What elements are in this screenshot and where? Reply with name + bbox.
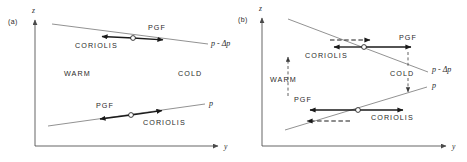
panel-b-warm-label: WARM xyxy=(270,75,297,84)
panel-a-lower-coriolis-arrow xyxy=(131,111,162,115)
panel-b-cold-motion: COLD xyxy=(390,52,414,92)
panel-b-upper-isobar-label: p - Δp xyxy=(431,65,451,74)
panel-b-lower-pgf-label: PGF xyxy=(294,95,312,104)
panel-a-axes: z y xyxy=(31,6,228,151)
panel-a-label: (a) xyxy=(8,18,18,26)
figure-container: (a) z y p - Δp CORIOLIS PGF p PGF CORIOL xyxy=(0,0,467,162)
panel-b-warm-motion: WARM xyxy=(270,57,297,96)
panel-a: (a) z y p - Δp CORIOLIS PGF p PGF CORIOL xyxy=(8,6,230,151)
panel-b-y-axis-label: z xyxy=(258,4,262,13)
panel-a-cold-label: COLD xyxy=(178,69,202,78)
panel-b-lower-isobar: p PGF CORIOLIS xyxy=(285,81,436,130)
panel-b-upper-coriolis-label: CORIOLIS xyxy=(305,51,348,60)
panel-b: (b) z y p - Δp CORIOLIS PGF p xyxy=(238,4,456,151)
panel-a-upper-parcel xyxy=(131,36,136,41)
panel-b-cold-label: COLD xyxy=(390,69,414,78)
panel-a-upper-coriolis-label: CORIOLIS xyxy=(75,41,118,50)
panel-a-upper-pgf-label: PGF xyxy=(148,23,166,32)
panel-a-upper-isobar: p - Δp CORIOLIS PGF xyxy=(52,23,230,50)
panel-a-x-axis-label: y xyxy=(223,142,228,151)
panel-a-lower-isobar: p PGF CORIOLIS xyxy=(48,99,213,127)
panel-a-warm-label: WARM xyxy=(64,69,91,78)
panel-b-lower-coriolis-label: CORIOLIS xyxy=(371,113,414,122)
diagram-canvas: (a) z y p - Δp CORIOLIS PGF p PGF CORIOL xyxy=(0,0,467,162)
panel-b-lower-isobar-label: p xyxy=(431,81,436,90)
panel-a-lower-pgf-arrow xyxy=(100,115,131,119)
panel-a-y-axis-label: z xyxy=(31,6,35,15)
panel-b-label: (b) xyxy=(238,16,248,24)
panel-a-upper-isobar-label: p - Δp xyxy=(210,39,230,48)
panel-b-lower-parcel xyxy=(356,108,361,113)
panel-a-lower-pgf-label: PGF xyxy=(96,101,114,110)
panel-b-x-axis-label: y xyxy=(451,142,456,151)
panel-a-lower-coriolis-label: CORIOLIS xyxy=(143,118,186,127)
panel-b-upper-parcel xyxy=(362,45,367,50)
panel-b-upper-pgf-label: PGF xyxy=(399,33,417,42)
panel-a-upper-pgf-arrow xyxy=(133,38,163,40)
panel-a-lower-isobar-label: p xyxy=(208,99,213,108)
panel-a-upper-coriolis-arrow xyxy=(102,37,133,39)
panel-b-upper-isobar: p - Δp CORIOLIS PGF xyxy=(288,19,451,74)
panel-a-lower-parcel xyxy=(129,113,134,118)
